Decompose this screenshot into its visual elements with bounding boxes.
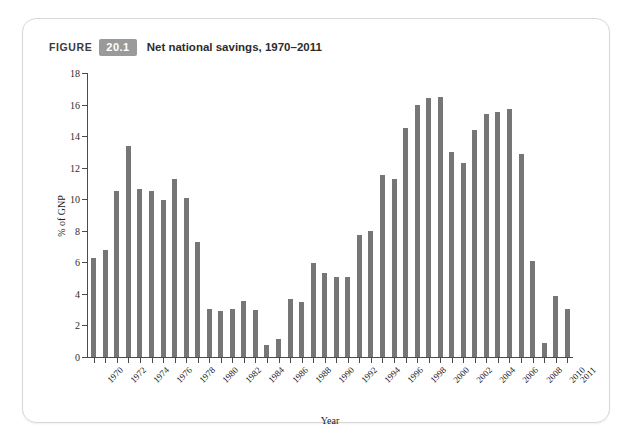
x-axis-tick — [429, 358, 430, 363]
bar — [253, 310, 258, 357]
x-axis-tick — [406, 358, 407, 363]
bar-series — [88, 73, 573, 357]
x-axis-tick-label: 2004 — [498, 365, 518, 385]
y-axis-tick-label: 0 — [75, 352, 80, 363]
x-axis-tick-label: 1994 — [382, 365, 402, 385]
x-axis-tick-label: 1996 — [405, 365, 425, 385]
bar — [530, 261, 535, 357]
x-axis-tick — [279, 358, 280, 363]
y-axis-tick — [82, 105, 87, 106]
x-axis-tick — [521, 358, 522, 363]
bar — [553, 296, 558, 357]
x-axis-tick — [567, 358, 568, 363]
x-axis-tick — [175, 358, 176, 363]
bar — [207, 309, 212, 357]
x-axis-tick — [556, 358, 557, 363]
bar — [149, 191, 154, 357]
x-axis-line — [87, 357, 573, 358]
x-axis-tick — [302, 358, 303, 363]
bar — [218, 311, 223, 357]
x-axis-tick-label: 2008 — [544, 365, 564, 385]
y-axis-tick — [82, 73, 87, 74]
x-axis-tick — [313, 358, 314, 363]
x-axis-tick-label: 2000 — [451, 365, 471, 385]
x-axis-tick — [221, 358, 222, 363]
figure-card: FIGURE 20.1 Net national savings, 1970–2… — [22, 18, 610, 423]
y-axis-title: % of GNP — [56, 195, 67, 237]
x-axis-tick-label: 1972 — [128, 365, 148, 385]
x-axis-tick — [336, 358, 337, 363]
x-axis-tick-label: 1990 — [336, 365, 356, 385]
x-axis-tick — [163, 358, 164, 363]
bar — [172, 179, 177, 357]
bar — [565, 309, 570, 357]
x-axis-tick — [290, 358, 291, 363]
bar — [103, 250, 108, 357]
bar — [276, 339, 281, 357]
y-axis-tick — [82, 325, 87, 326]
x-axis-tick-label: 1974 — [151, 365, 171, 385]
x-axis-tick — [544, 358, 545, 363]
bar — [345, 277, 350, 357]
bar — [264, 345, 269, 357]
y-axis-tick — [82, 357, 87, 358]
bar — [91, 258, 96, 357]
x-axis-tick — [371, 358, 372, 363]
bar — [311, 263, 316, 357]
bar — [542, 343, 547, 357]
chart-axis-area: % of GNP 024681012141618 197019721974197… — [87, 73, 573, 358]
y-axis-tick-label: 18 — [70, 68, 80, 79]
x-axis-tick — [463, 358, 464, 363]
bar — [519, 154, 524, 357]
bar — [114, 191, 119, 357]
x-axis-tick — [267, 358, 268, 363]
x-axis-tick-label: 1986 — [290, 365, 310, 385]
x-axis-tick-label: 1980 — [221, 365, 241, 385]
bar — [241, 301, 246, 357]
x-axis-tick — [486, 358, 487, 363]
y-axis-tick — [82, 231, 87, 232]
bar — [461, 163, 466, 357]
bar — [368, 231, 373, 357]
x-axis-tick — [348, 358, 349, 363]
x-axis-tick — [452, 358, 453, 363]
x-axis-tick — [509, 358, 510, 363]
x-axis-tick — [255, 358, 256, 363]
bar — [288, 299, 293, 357]
x-axis-title: Year — [87, 415, 573, 426]
y-axis-tick-label: 16 — [70, 99, 80, 110]
bar — [184, 198, 189, 357]
x-axis-tick — [232, 358, 233, 363]
x-axis-tick — [198, 358, 199, 363]
y-axis-tick — [82, 168, 87, 169]
x-axis-tick — [94, 358, 95, 363]
y-axis-tick — [82, 199, 87, 200]
bar — [484, 114, 489, 357]
y-axis-tick-label: 8 — [75, 225, 80, 236]
x-axis-tick — [105, 358, 106, 363]
x-axis-tick-label: 2002 — [475, 365, 495, 385]
bar — [299, 302, 304, 357]
y-axis-tick — [82, 262, 87, 263]
y-axis-tick-label: 12 — [70, 162, 80, 173]
screenshot-root: FIGURE 20.1 Net national savings, 1970–2… — [0, 0, 631, 445]
y-axis-tick-label: 6 — [75, 257, 80, 268]
x-axis-tick — [533, 358, 534, 363]
y-axis-tick-label: 10 — [70, 194, 80, 205]
bar — [230, 309, 235, 357]
x-axis-tick — [417, 358, 418, 363]
x-axis-tick — [128, 358, 129, 363]
bar — [415, 105, 420, 357]
bar — [472, 130, 477, 357]
x-axis-tick-label: 1998 — [428, 365, 448, 385]
bar — [322, 273, 327, 357]
y-axis-tick-label: 14 — [70, 131, 80, 142]
x-axis-tick — [498, 358, 499, 363]
x-axis-tick — [186, 358, 187, 363]
bar — [137, 189, 142, 357]
bar — [357, 235, 362, 357]
bar — [392, 179, 397, 357]
x-axis-tick — [440, 358, 441, 363]
x-axis-tick-label: 1984 — [267, 365, 287, 385]
y-axis-tick — [82, 294, 87, 295]
